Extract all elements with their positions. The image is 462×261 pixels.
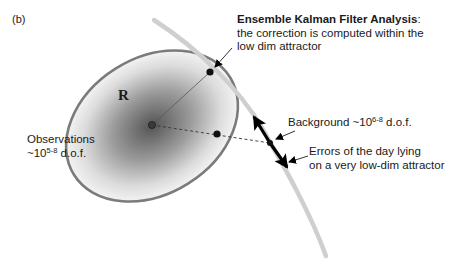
observations-line-1: Observations (27, 133, 95, 147)
projection-dot (213, 130, 220, 137)
errors-pointer-arrow (289, 156, 308, 162)
enkf-title: Ensemble Kalman Filter Analysis (237, 13, 417, 25)
covariance-matrix-label: R (118, 87, 129, 104)
background-dof-unit: d.o.f. (383, 116, 412, 128)
background-annotation: Background ~106-8 d.o.f. (288, 116, 412, 130)
observations-dof-base: ~10 (27, 147, 47, 159)
panel-label: (b) (12, 13, 25, 27)
background-pointer-arrow (276, 131, 295, 139)
enkf-pointer-arrow (215, 48, 232, 67)
observations-dof-exponent: 5-8 (47, 146, 58, 155)
enkf-line-2: the correction is computed within the (237, 27, 424, 41)
observations-line-2: ~105-8 d.o.f. (27, 147, 95, 161)
background-dof-exponent: 6-8 (372, 115, 383, 124)
background-dot (267, 140, 273, 146)
observations-annotation: Observations ~105-8 d.o.f. (27, 133, 95, 160)
errors-line-1: Errors of the day lying (309, 145, 445, 159)
background-dof-base: Background ~10 (288, 116, 372, 128)
enkf-title-colon: : (417, 13, 420, 25)
observation-center-dot (148, 121, 155, 128)
enkf-title-line: Ensemble Kalman Filter Analysis: (237, 13, 424, 27)
observations-dof-unit: d.o.f. (57, 147, 86, 159)
enkf-line-3: low dim attractor (237, 40, 424, 54)
enkf-annotation: Ensemble Kalman Filter Analysis: the cor… (237, 13, 424, 54)
errors-line-2: on a very low-dim attractor (309, 159, 445, 173)
analysis-dot (206, 68, 213, 75)
errors-annotation: Errors of the day lying on a very low-di… (309, 145, 445, 172)
